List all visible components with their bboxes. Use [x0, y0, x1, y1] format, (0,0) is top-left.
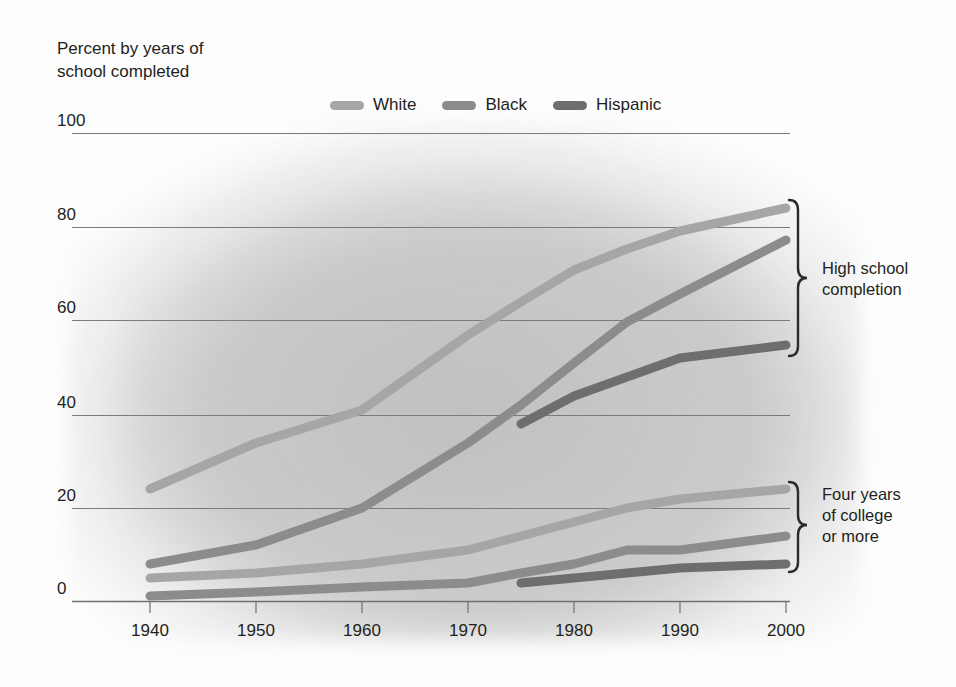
- x-axis-ticks: [150, 602, 786, 614]
- brace-high-school: [789, 200, 807, 356]
- line-hispanic-high-school: [521, 345, 786, 424]
- line-black-high-school: [150, 240, 786, 564]
- chart-canvas: [0, 0, 956, 687]
- chart-figure: Percent by years of school completed Whi…: [0, 0, 956, 687]
- gridlines: [72, 134, 790, 509]
- brace-college: [789, 482, 807, 572]
- series-group-high-school: [150, 208, 786, 564]
